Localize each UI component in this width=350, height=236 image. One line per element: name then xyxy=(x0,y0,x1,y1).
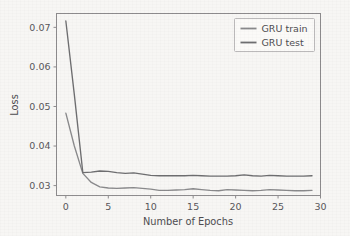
x-tick-label: 0 xyxy=(63,201,69,212)
x-tick-label: 15 xyxy=(187,201,199,212)
series-line-gru-train xyxy=(66,113,312,191)
loss-curve-chart: 0.030.040.050.060.07 051015202530 Number… xyxy=(0,0,350,236)
y-axis-title: Loss xyxy=(9,94,20,116)
y-tick-label: 0.03 xyxy=(29,180,50,191)
chart-figure: 0.030.040.050.060.07 051015202530 Number… xyxy=(0,0,350,236)
chart-legend[interactable]: GRU trainGRU test xyxy=(235,19,315,52)
x-tick-label: 20 xyxy=(230,201,242,212)
y-tick-label: 0.05 xyxy=(29,101,50,112)
x-axis-ticks: 051015202530 xyxy=(63,196,327,212)
x-tick-label: 25 xyxy=(272,201,284,212)
x-tick-label: 10 xyxy=(145,201,157,212)
x-tick-label: 30 xyxy=(314,201,326,212)
y-tick-label: 0.07 xyxy=(29,22,50,33)
y-tick-label: 0.06 xyxy=(29,61,50,72)
x-tick-label: 5 xyxy=(105,201,111,212)
x-axis-title: Number of Epochs xyxy=(143,216,233,227)
y-tick-label: 0.04 xyxy=(29,140,50,151)
y-axis-ticks: 0.030.040.050.060.07 xyxy=(29,22,56,191)
legend-label-gru-test[interactable]: GRU test xyxy=(262,37,304,48)
legend-label-gru-train[interactable]: GRU train xyxy=(262,23,308,34)
